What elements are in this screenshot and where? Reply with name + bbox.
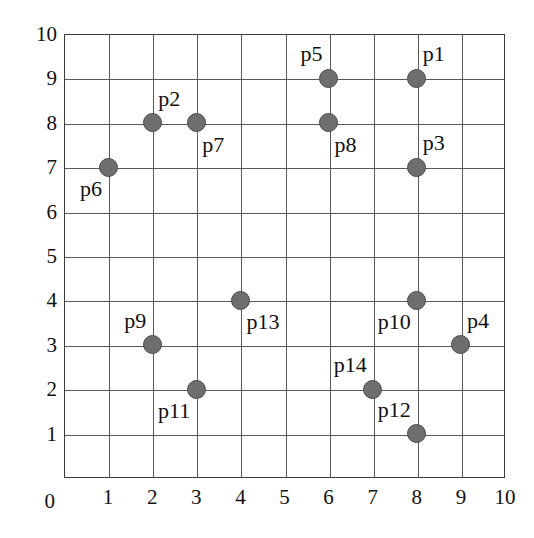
data-point-p5[interactable]: [319, 69, 338, 88]
y-axis-tick-label: 8: [47, 112, 58, 133]
gridline-horizontal: [65, 257, 504, 258]
gridline-horizontal: [65, 346, 504, 347]
data-point-p14[interactable]: [363, 380, 382, 399]
gridline-vertical: [241, 35, 242, 477]
y-axis-tick-label: 3: [47, 334, 58, 355]
gridline-horizontal: [65, 124, 504, 125]
data-point-label-p7: p7: [202, 134, 224, 156]
plot-area: [64, 34, 505, 478]
data-point-p11[interactable]: [187, 380, 206, 399]
x-axis-tick-label: 5: [279, 487, 290, 508]
data-point-p2[interactable]: [143, 113, 162, 132]
x-axis-tick-label: 3: [191, 487, 202, 508]
y-axis-tick-label: 10: [36, 24, 57, 45]
data-point-p7[interactable]: [187, 113, 206, 132]
x-axis-tick-label: 2: [147, 487, 158, 508]
y-axis-tick-label: 5: [47, 246, 58, 267]
data-point-label-p11: p11: [158, 400, 190, 422]
data-point-label-p3: p3: [423, 132, 445, 154]
x-axis-tick-label: 4: [235, 487, 246, 508]
x-axis-tick-label: 7: [367, 487, 378, 508]
data-point-label-p5: p5: [301, 43, 323, 65]
gridline-vertical: [330, 35, 331, 477]
gridline-vertical: [462, 35, 463, 477]
gridline-vertical: [153, 35, 154, 477]
gridline-horizontal: [65, 301, 504, 302]
x-axis-tick-label: 8: [412, 487, 423, 508]
gridline-horizontal: [65, 435, 504, 436]
gridline-horizontal: [65, 168, 504, 169]
y-axis-tick-label: 9: [47, 68, 58, 89]
data-point-label-p13: p13: [246, 311, 279, 333]
data-point-label-p1: p1: [423, 43, 445, 65]
x-axis-tick-label: 9: [456, 487, 467, 508]
data-point-label-p8: p8: [335, 134, 357, 156]
gridline-vertical: [418, 35, 419, 477]
data-point-p6[interactable]: [99, 158, 118, 177]
data-point-p13[interactable]: [231, 291, 250, 310]
y-axis-tick-label: 4: [47, 290, 58, 311]
data-point-label-p10: p10: [378, 311, 411, 333]
gridline-vertical: [197, 35, 198, 477]
gridline-horizontal: [65, 79, 504, 80]
scatter-plot-figure: 01234567891012345678910 p1p2p3p4p5p6p7p8…: [0, 0, 534, 538]
data-point-label-p6: p6: [80, 178, 102, 200]
y-axis-tick-label: 1: [47, 423, 58, 444]
x-axis-tick-label: 10: [495, 487, 516, 508]
data-point-label-p12: p12: [378, 399, 411, 421]
x-axis-tick-label: 1: [103, 487, 114, 508]
data-point-p3[interactable]: [407, 158, 426, 177]
gridline-vertical: [109, 35, 110, 477]
gridline-vertical: [286, 35, 287, 477]
gridline-horizontal: [65, 390, 504, 391]
gridline-horizontal: [65, 213, 504, 214]
y-axis-tick-label: 0: [45, 491, 56, 512]
y-axis-tick-label: 7: [47, 157, 58, 178]
data-point-p9[interactable]: [143, 335, 162, 354]
data-point-label-p2: p2: [158, 88, 180, 110]
data-point-label-p14: p14: [334, 354, 367, 376]
y-axis-tick-label: 2: [47, 379, 58, 400]
data-point-label-p4: p4: [467, 310, 489, 332]
y-axis-tick-label: 6: [47, 201, 58, 222]
data-point-label-p9: p9: [124, 310, 146, 332]
gridline-vertical: [374, 35, 375, 477]
x-axis-tick-label: 6: [323, 487, 334, 508]
